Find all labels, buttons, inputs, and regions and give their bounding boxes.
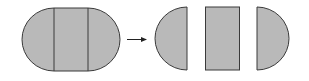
stadium-shape [22,8,120,71]
arrow-right-icon [127,37,147,42]
rectangle-piece [206,7,240,70]
decomposition-diagram [0,0,309,81]
right-semicircle-piece [257,7,289,70]
left-semicircle-piece [155,7,187,70]
stadium-outline [22,8,120,71]
